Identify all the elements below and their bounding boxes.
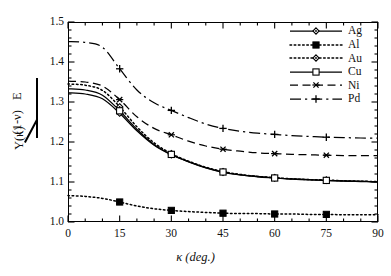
legend-sample-ag <box>288 24 344 38</box>
data-marker-square-filled <box>117 199 123 205</box>
legend-label-ag: Ag <box>348 24 362 37</box>
legend-sample-al <box>288 38 344 52</box>
data-marker-dot <box>315 30 317 32</box>
x-axis-title-text: κ (deg.) <box>176 250 215 264</box>
legend-label-pd: Pd <box>348 92 360 105</box>
y-tick-label: 1.2 <box>50 136 64 148</box>
series-al <box>68 196 378 218</box>
data-marker-square-filled <box>313 41 319 47</box>
legend-item-ag: Ag <box>288 24 374 38</box>
data-marker-square <box>313 69 319 75</box>
data-marker-square <box>323 177 329 183</box>
data-marker-square-filled <box>168 207 174 213</box>
data-marker-square <box>117 108 123 114</box>
y-tick-label: 1.5 <box>50 16 64 28</box>
legend-label-au: Au <box>348 52 362 65</box>
x-tick-label: 15 <box>114 228 126 240</box>
x-tick-label: 0 <box>65 228 71 240</box>
x-tick-label: 90 <box>372 228 384 240</box>
y-tick-label: 1.1 <box>50 176 64 188</box>
legend-label-ni: Ni <box>348 79 360 92</box>
x-axis-tick-labels: 0153045607590 <box>68 228 378 244</box>
legend-item-pd: Pd <box>288 92 374 106</box>
y-tick-label: 1.4 <box>50 56 64 68</box>
data-marker-square-filled <box>272 211 278 217</box>
x-axis-title: κ (deg.) <box>0 250 391 265</box>
legend-item-cu: Cu <box>288 65 374 79</box>
data-marker-dot <box>315 57 317 59</box>
legend-label-al: Al <box>348 38 360 51</box>
legend-item-al: Al <box>288 38 374 52</box>
y-tick-label: 1.3 <box>50 96 64 108</box>
legend-sample-au <box>288 51 344 65</box>
y-axis-fraction-bar <box>36 78 38 138</box>
legend-sample-cu <box>288 65 344 79</box>
data-marker-square <box>272 175 278 181</box>
x-tick-label: 60 <box>269 228 281 240</box>
chart-figure: 1.01.11.21.31.41.5 Y(κ) E (1-ν) 01530456… <box>0 0 391 276</box>
y-axis-title: Y(κ) E (1-ν) <box>4 72 50 168</box>
legend-sample-ni <box>288 78 344 92</box>
x-tick-label: 45 <box>217 228 229 240</box>
legend-sample-pd <box>288 92 344 106</box>
legend-item-au: Au <box>288 51 374 65</box>
data-marker-square-filled <box>220 210 226 216</box>
x-tick-label: 30 <box>166 228 178 240</box>
data-marker-square-filled <box>323 211 329 217</box>
x-tick-label: 75 <box>321 228 333 240</box>
y-tick-label: 1.0 <box>50 216 64 228</box>
data-marker-square <box>168 151 174 157</box>
data-marker-square <box>220 169 226 175</box>
legend-item-ni: Ni <box>288 78 374 92</box>
chart-legend: AgAlAuCuNiPd <box>288 24 374 106</box>
y-axis-denominator-bottom: (1-ν) <box>11 100 24 144</box>
legend-label-cu: Cu <box>348 65 361 78</box>
